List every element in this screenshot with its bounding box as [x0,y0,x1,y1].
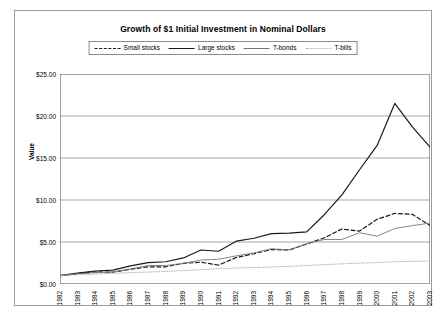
x-axis-tick-label: 2001 [391,291,398,305]
x-axis-tick-label: 1995 [285,291,292,305]
x-axis-tick-label: 2000 [373,291,380,305]
chart-container: Growth of $1 Initial Investment in Nomin… [14,10,432,306]
x-axis-tick-label: 1999 [356,291,363,305]
x-axis-tick-label: 2002 [408,291,415,305]
legend-swatch-solid-icon [169,45,195,52]
x-axis-tick-label: 1994 [267,291,274,305]
chart-legend: Small stocks Large stocks T-bonds T-bill… [89,41,358,55]
y-axis-tick-label: $15.00 [36,155,56,162]
legend-label: Small stocks [124,44,160,52]
chart-plot-svg [60,74,430,284]
plot-area: Value $0.00$5.00$10.00$15.00$20.00$25.00… [60,74,430,284]
y-axis-tick-label: $5.00 [40,239,56,246]
x-axis-tick-label: 1982 [56,291,63,305]
series-line-small-stocks [60,213,430,275]
y-axis-tick-label: $25.00 [36,71,56,78]
legend-swatch-dotted-icon [305,45,331,52]
y-axis-title: Value [28,143,35,160]
x-axis-tick-label: 1985 [109,291,116,305]
x-axis-tick-label: 1992 [232,291,239,305]
legend-item-t-bills[interactable]: T-bills [305,44,351,52]
x-axis-tick-label: 1983 [74,291,81,305]
legend-label: T-bills [334,44,351,52]
legend-item-t-bonds[interactable]: T-bonds [244,44,297,52]
legend-label: Large stocks [198,44,235,52]
legend-label: T-bonds [273,44,297,52]
x-axis-tick-label: 1989 [179,291,186,305]
x-axis-tick-label: 1996 [303,291,310,305]
y-axis-tick-label: $0.00 [40,281,56,288]
x-axis-tick-label: 1998 [338,291,345,305]
x-axis-tick-label: 1990 [197,291,204,305]
legend-item-large-stocks[interactable]: Large stocks [169,44,235,52]
legend-item-small-stocks[interactable]: Small stocks [95,44,160,52]
series-line-t-bills [60,261,430,276]
x-axis-tick-label: 1988 [162,291,169,305]
y-axis-tick-label: $10.00 [36,197,56,204]
x-axis-tick-label: 1987 [144,291,151,305]
x-axis-tick-label: 1997 [320,291,327,305]
x-axis-tick-label: 1993 [250,291,257,305]
legend-swatch-thin-icon [244,45,270,52]
x-axis-tick-label: 2003 [426,291,433,305]
series-line-large-stocks [60,103,430,275]
legend-swatch-dashed-icon [95,45,121,52]
x-axis-tick-label: 1991 [215,291,222,305]
y-axis-tick-label: $20.00 [36,113,56,120]
chart-title: Growth of $1 Initial Investment in Nomin… [15,24,431,34]
x-axis-tick-label: 1986 [126,291,133,305]
x-axis-tick-label: 1984 [91,291,98,305]
